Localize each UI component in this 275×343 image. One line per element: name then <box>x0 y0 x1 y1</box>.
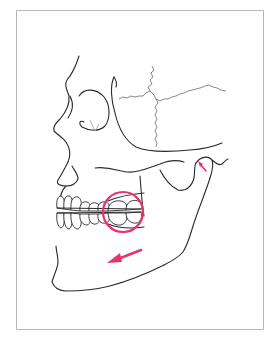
orbit <box>79 90 109 130</box>
zygomatic-arch <box>111 77 222 152</box>
maxilla <box>57 162 78 186</box>
mandible-body <box>52 246 164 291</box>
coronal-suture <box>119 66 154 99</box>
nasal-profile <box>54 56 79 162</box>
sigmoid-notch <box>160 163 196 190</box>
condyle-indicator-icon <box>198 161 206 171</box>
mandible-ramus <box>164 178 210 265</box>
skull-illustration <box>0 0 275 343</box>
maxilla-upper-contour <box>95 161 184 172</box>
lower-teeth <box>57 212 144 229</box>
squamosal-suture <box>150 85 226 101</box>
temporal-line <box>114 77 116 87</box>
vertical-suture <box>155 99 158 147</box>
articular-eminence <box>212 159 228 165</box>
condyle <box>196 157 213 178</box>
direction-arrow-icon <box>107 250 141 263</box>
upper-teeth <box>57 193 144 211</box>
